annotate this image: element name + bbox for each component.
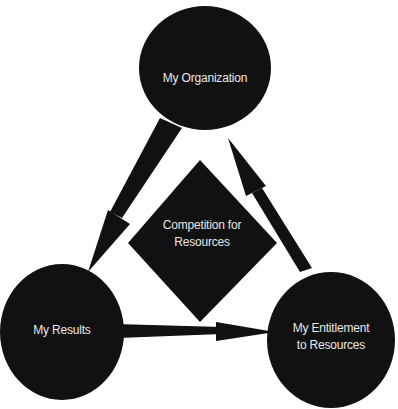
entitlement-label: My Entitlement to Resources [271, 320, 391, 354]
competition-label: Competition for Resources [142, 217, 262, 251]
competition-label-line2: Resources [142, 234, 262, 251]
arrow-results-to-entitlement [115, 322, 275, 341]
entitlement-label-line1: My Entitlement [271, 320, 391, 337]
competition-label-line1: Competition for [142, 217, 262, 234]
entitlement-label-line2: to Resources [271, 337, 391, 354]
organization-label: My Organization [145, 70, 265, 87]
results-label: My Results [2, 322, 122, 339]
node-organization [139, 6, 271, 130]
